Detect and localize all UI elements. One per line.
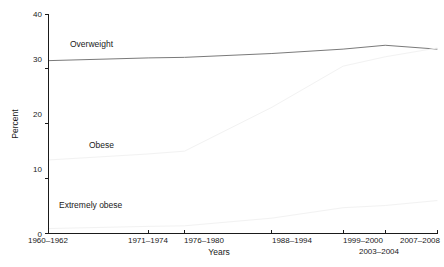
y-tick-label-20: 20 [33, 110, 42, 119]
chart-container: 0 10 20 30 40 1960–1962 1971–1974 1976–1… [0, 0, 444, 267]
series-label-obese: Obese [89, 140, 114, 150]
series-label-overweight: Overweight [70, 39, 114, 49]
x-tick-label-1999-2000: 1999–2000 [343, 236, 384, 245]
x-tick-label-1988-1994: 1988–1994 [272, 236, 313, 245]
line-chart: 0 10 20 30 40 1960–1962 1971–1974 1976–1… [0, 0, 444, 267]
y-tick-label-40: 40 [33, 10, 42, 19]
x-tick-label-2007-2008: 2007–2008 [400, 236, 441, 245]
x-axis-title: Years [208, 247, 229, 257]
y-axis-title: Percent [10, 109, 20, 139]
chart-background [0, 0, 444, 267]
x-tick-label-1960-1962: 1960–1962 [28, 236, 69, 245]
x-tick-label-2003-2004: 2003–2004 [359, 247, 400, 256]
series-label-extremely-obese: Extremely obese [59, 200, 123, 210]
x-tick-label-1976-1980: 1976–1980 [184, 236, 225, 245]
y-tick-label-10: 10 [33, 165, 42, 174]
x-tick-label-1971-1974: 1971–1974 [128, 236, 169, 245]
y-tick-label-30: 30 [33, 55, 42, 64]
